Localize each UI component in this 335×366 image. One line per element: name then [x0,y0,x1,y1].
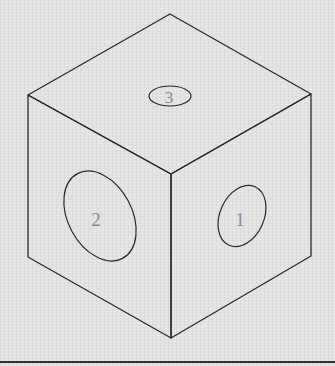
diagram-canvas: 3 2 1 [0,0,335,366]
hole-3-label: 3 [165,88,174,107]
hole-1-label: 1 [235,209,245,230]
hole-2-label: 2 [91,209,101,230]
cube-diagram: 3 2 1 [0,0,335,366]
bottom-rule [0,361,335,363]
